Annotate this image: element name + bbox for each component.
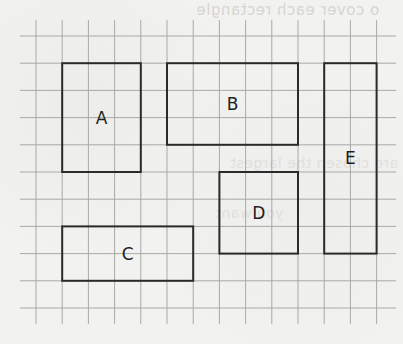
rectangle-label: E: [345, 148, 356, 168]
rectangle-label: B: [227, 94, 239, 114]
rectangle-grid-diagram: ABCDE: [0, 0, 403, 344]
rectangle-label: C: [122, 244, 134, 264]
rectangle-label: A: [96, 108, 108, 128]
rectangle-d: D: [219, 172, 298, 254]
rectangle-label: D: [252, 203, 265, 223]
rectangle-b: B: [167, 63, 298, 145]
